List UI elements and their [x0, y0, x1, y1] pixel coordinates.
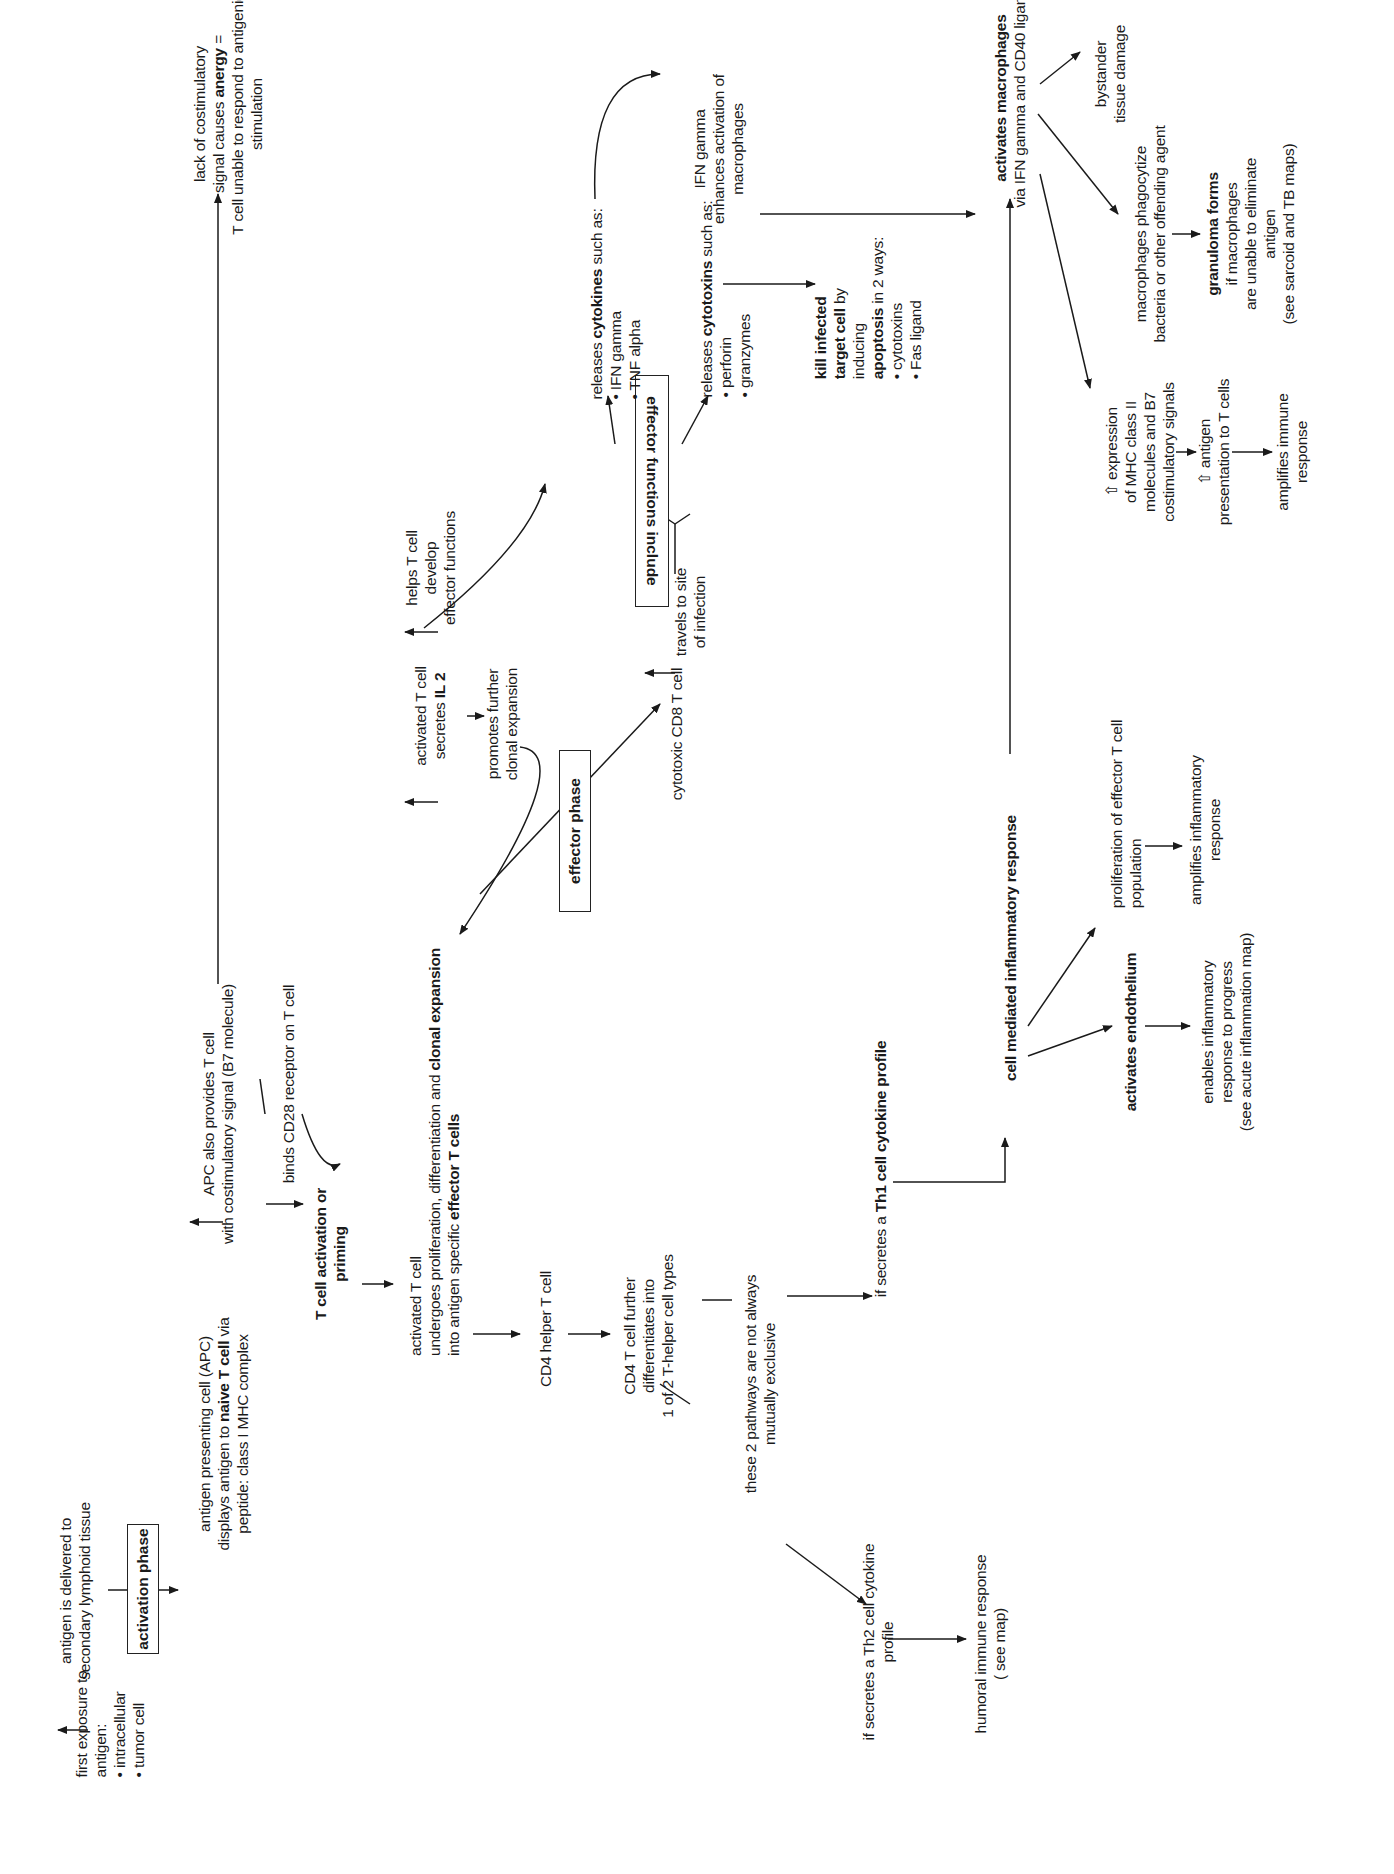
node-phagocytize: macrophages phagocytize bacteria or othe… [1131, 125, 1169, 342]
node-activates-endothelium: activates endothelium [1121, 953, 1140, 1112]
node-amplifies-immune: amplifies immune response [1273, 393, 1311, 510]
node-releases-cytokines: releases cytokines such as: • IFN gamma … [587, 208, 644, 399]
node-cell-mediated-response: cell mediated inflammatory response [1001, 815, 1020, 1081]
activation-phase-box: activation phase [127, 1524, 159, 1654]
node-bystander-damage: bystander tissue damage [1091, 25, 1129, 123]
node-antigen-delivered: antigen is delivered to secondary lympho… [56, 1502, 94, 1680]
node-not-exclusive: these 2 pathways are not always mutually… [741, 1275, 779, 1494]
node-travels-site: travels to site of infection [671, 568, 709, 656]
node-binds-cd28: binds CD28 receptor on T cell [279, 985, 298, 1184]
first-exposure-bullets: • intracellular • tumor cell [110, 1671, 148, 1778]
node-humoral-response: humoral immune response ( see map) [971, 1555, 1009, 1734]
node-activated-t-cell: activated T cell undergoes proliferation… [406, 948, 463, 1356]
node-mhc-expression: ⇧ expression of MHC class II molecules a… [1102, 382, 1178, 522]
node-th1-profile: if secretes a Th1 cell cytokine profile [871, 1041, 890, 1298]
node-apc-costimulatory: APC also provides T cell with costimulat… [199, 984, 237, 1244]
node-anergy: lack of costimulatory signal causes aner… [190, 0, 266, 235]
node-amplifies-inflammatory: amplifies inflammatory response [1186, 755, 1224, 905]
node-secretes-il2: activated T cell secretes IL 2 [411, 666, 449, 766]
node-helps-t-cell: helps T cell develop effector functions [402, 511, 459, 625]
node-releases-cytotoxins: releases cytotoxins such as: • perforin … [697, 201, 754, 398]
node-t-cell-priming: T cell activation or priming [311, 1188, 349, 1320]
concept-map-canvas: first exposure to antigen: • intracellul… [0, 0, 1394, 1874]
node-enables-inflammatory: enables inflammatory response to progres… [1198, 933, 1255, 1132]
node-granuloma-forms: granuloma forms if macrophages are unabl… [1203, 144, 1298, 325]
node-antigen-presentation: ⇧ antigen presentation to T cells [1195, 379, 1233, 525]
node-cd4-helper: CD4 helper T cell [536, 1271, 555, 1387]
node-promotes-expansion: promotes further clonal expansion [483, 668, 521, 780]
node-activates-macrophages: activates macrophages via IFN gamma and … [991, 0, 1029, 208]
node-first-exposure: first exposure to antigen: • intracellul… [72, 1671, 148, 1778]
node-apc-displays: antigen presenting cell (APC) displays a… [195, 1317, 252, 1550]
node-cytotoxic-cd8: cytotoxic CD8 T cell [667, 668, 686, 800]
node-proliferation-effector: proliferation of effector T cell populat… [1107, 720, 1145, 908]
node-th2-profile: if secretes a Th2 cell cytokine profile [859, 1544, 897, 1741]
node-kill-infected-cell: kill infected target cell by inducing ap… [811, 237, 925, 379]
node-cd4-differentiates: CD4 T cell further differentiates into 1… [620, 1254, 677, 1417]
effector-functions-box: effector functions include [635, 375, 669, 607]
node-ifn-gamma: IFN gamma enhances activation of macroph… [690, 74, 747, 224]
effector-phase-box: effector phase [559, 750, 591, 912]
